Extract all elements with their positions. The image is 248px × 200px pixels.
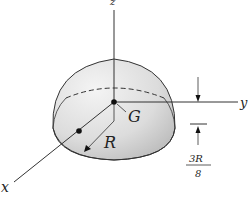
dimension-bottom-arrowhead-icon	[196, 126, 201, 133]
z-axis-label: z	[109, 0, 116, 7]
centroid-point	[111, 99, 117, 105]
dimension-numerator: 3R	[189, 153, 203, 164]
hemisphere-diagram: z y x G R 3R 8	[0, 0, 248, 200]
radius-label: R	[103, 133, 116, 152]
dimension-denominator: 8	[195, 168, 201, 179]
point-on-x-axis	[76, 128, 82, 134]
dimension-top-arrowhead-icon	[196, 95, 201, 102]
x-axis-label: x	[1, 179, 9, 195]
y-axis-label: y	[239, 95, 248, 110]
centroid-label: G	[128, 107, 141, 126]
